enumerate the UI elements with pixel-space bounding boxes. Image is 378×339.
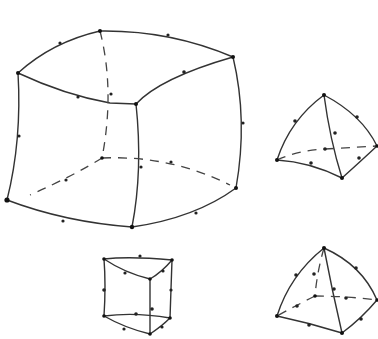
hex-edge-top-front-right — [136, 57, 233, 104]
tet-midside-node — [357, 156, 361, 160]
pyramid-corner-node — [340, 331, 344, 335]
wedge-midside-node — [138, 254, 141, 257]
hex-midside-node — [64, 178, 67, 181]
hex-edge-left-vertical — [7, 73, 19, 200]
hex-corner-node — [4, 197, 9, 202]
wedge-midside-node — [160, 325, 163, 328]
hexahedron-element — [4, 29, 244, 229]
hex-edge-right-vertical — [233, 57, 241, 188]
hex-midside-node — [169, 160, 172, 163]
wedge-element — [102, 254, 174, 335]
tet-midside-node — [293, 119, 297, 123]
wedge-edge — [104, 258, 172, 260]
tet-midside-node — [309, 161, 313, 165]
tet-edge — [277, 95, 324, 160]
wedge-corner-node — [102, 257, 106, 261]
pyramid-midside-node — [294, 273, 298, 277]
hex-corner-node — [231, 55, 235, 59]
hex-midside-node — [109, 92, 112, 95]
wedge-corner-node — [148, 332, 152, 336]
hex-edge-top-front-left — [18, 73, 136, 104]
pyramid-midside-node — [354, 266, 358, 270]
tet-edge — [324, 95, 342, 178]
pyramid-midside-node — [344, 296, 348, 300]
hex-edge-bottom-left — [7, 200, 132, 227]
pyramid-midside-node — [307, 323, 311, 327]
finite-element-diagram — [0, 0, 378, 339]
wedge-midside-node — [150, 307, 154, 311]
hex-edge-top-left — [18, 31, 100, 73]
pyramid-midside-node — [312, 272, 316, 276]
pyramid-edge — [342, 300, 377, 333]
pyramid-element — [275, 246, 378, 335]
wedge-corner-node — [102, 314, 106, 318]
tet-midside-node — [323, 147, 327, 151]
hex-hidden-edge-left — [30, 158, 102, 195]
pyramid-corner-node — [313, 294, 317, 298]
hex-corner-node — [234, 186, 238, 190]
tet-hidden-edge — [277, 149, 325, 160]
pyramid-corner-node — [275, 314, 279, 318]
pyramid-midside-node — [332, 287, 336, 291]
pyramid-corner-node — [322, 246, 326, 250]
pyramid-edge — [324, 248, 377, 300]
tetrahedron-element — [275, 93, 378, 180]
wedge-midside-node — [122, 327, 125, 330]
wedge-midside-node — [123, 271, 126, 274]
hex-midside-node — [58, 41, 61, 44]
hex-midside-node — [17, 134, 20, 137]
pyramid-midside-node — [295, 304, 299, 308]
tet-midside-node — [355, 115, 359, 119]
hex-edge-front-vertical — [132, 104, 139, 227]
wedge-corner-node — [148, 277, 152, 281]
tet-corner-node — [340, 176, 344, 180]
hex-midside-node — [76, 95, 79, 98]
hex-midside-node — [139, 165, 142, 168]
hex-corner-node — [100, 156, 104, 160]
tet-corner-node — [322, 93, 326, 97]
wedge-corner-node — [168, 316, 172, 320]
wedge-midside-node — [161, 269, 164, 272]
wedge-edge — [104, 259, 150, 279]
hex-hidden-edge-right — [102, 158, 230, 185]
wedge-midside-node — [169, 288, 172, 291]
hex-midside-node — [241, 121, 244, 124]
tet-midside-node — [333, 131, 337, 135]
hex-midside-node — [61, 219, 64, 222]
hex-corner-node — [16, 71, 20, 75]
hex-hidden-edge-vertical — [100, 31, 108, 158]
hex-edge-bottom-right — [132, 188, 236, 227]
wedge-edge — [150, 318, 170, 334]
wedge-midside-node — [102, 288, 106, 292]
wedge-edge — [104, 316, 150, 334]
hex-midside-node — [166, 33, 169, 36]
tet-corner-node — [275, 158, 279, 162]
wedge-edge — [104, 259, 105, 316]
hex-midside-node — [194, 211, 197, 214]
pyramid-edge — [324, 248, 342, 333]
hex-midside-node — [182, 70, 186, 74]
hex-corner-node — [98, 29, 102, 33]
wedge-edge — [150, 260, 172, 279]
wedge-midside-node — [134, 312, 138, 316]
pyramid-midside-node — [359, 317, 363, 321]
hex-corner-node — [134, 102, 138, 106]
tet-edge — [342, 146, 377, 178]
wedge-corner-node — [170, 258, 174, 262]
hex-corner-node — [130, 225, 134, 229]
